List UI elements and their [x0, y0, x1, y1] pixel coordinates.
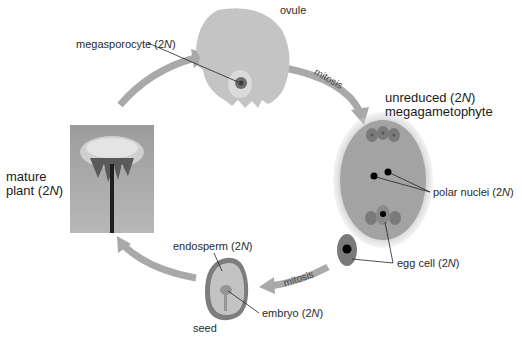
- embryo-label: embryo (2N): [262, 307, 323, 320]
- mature-plant-photo: [70, 125, 154, 233]
- egg-cell-illustration: [337, 234, 357, 266]
- mature-plant-label: mature plant (2N): [6, 170, 63, 198]
- megagametophyte-label: unreduced (2N) megagametophyte: [385, 91, 493, 119]
- polar-nucleus-2: [385, 169, 392, 176]
- antipodal-cells: [366, 126, 400, 142]
- megagametophyte-label-line1: unreduced (2N): [385, 91, 493, 105]
- polar-nuclei-label: polar nuclei (2N): [433, 186, 514, 199]
- endosperm-label: endosperm (2N): [173, 240, 253, 253]
- ovule-illustration: [196, 8, 290, 108]
- megagametophyte-label-line2: megagametophyte: [385, 105, 493, 119]
- seed-label: seed: [193, 322, 217, 335]
- mature-plant-label-line1: mature: [6, 170, 63, 184]
- seed-illustration: [205, 258, 248, 320]
- megasporocyte-label: megasporocyte (2N): [76, 38, 176, 51]
- mature-plant-label-line2: plant (2N): [6, 184, 63, 198]
- egg-cell-label: egg cell (2N): [397, 257, 459, 270]
- polar-nucleus-1: [371, 173, 378, 180]
- megagametophyte-illustration: [333, 112, 433, 248]
- arrow-plant-to-ovule: [120, 49, 210, 105]
- ovule-label: ovule: [280, 4, 306, 17]
